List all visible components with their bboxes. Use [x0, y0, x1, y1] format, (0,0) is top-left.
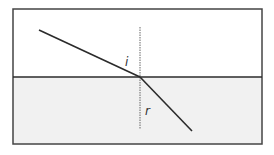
incident-ray: [39, 30, 140, 77]
incidence-angle-label: i: [125, 55, 129, 69]
lower-medium: [13, 77, 262, 144]
refraction-diagram: i r: [0, 0, 274, 155]
